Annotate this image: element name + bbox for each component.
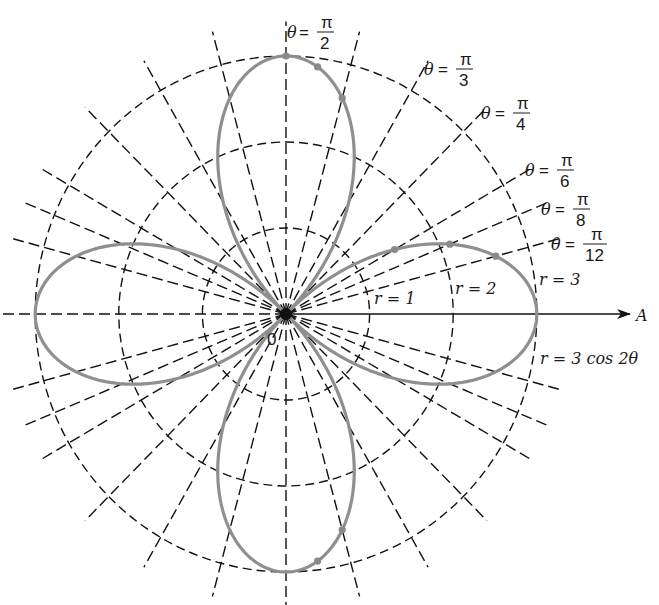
angle-label-pi-over-6: θ = π 6 (525, 151, 574, 191)
svg-text:=: = (539, 161, 549, 180)
plotted-point (282, 52, 289, 59)
grid-ray-345 (286, 314, 561, 390)
plotted-point (492, 253, 499, 260)
grid-ray-255 (212, 314, 286, 596)
grid-ray-135 (85, 107, 286, 314)
circle-label-r2: r = 2 (455, 279, 496, 298)
plotted-point (446, 241, 453, 248)
angle-label-pi-over-3: θ = π 3 (424, 50, 473, 90)
grid-ray-285 (286, 314, 360, 596)
circle-label-r1: r = 1 (374, 289, 415, 308)
svg-text:π: π (561, 151, 573, 170)
angle-label-pi-over-2: θ = π 2 (287, 13, 334, 53)
svg-text:θ: θ (481, 104, 491, 123)
plotted-point (314, 63, 321, 70)
svg-text:6: 6 (560, 172, 569, 191)
plotted-point (391, 246, 398, 253)
circle-label-r3: r = 3 (539, 270, 580, 289)
svg-text:θ: θ (541, 200, 551, 219)
angle-label-pi-over-8: θ = π 8 (541, 190, 590, 230)
svg-text:π: π (460, 50, 472, 69)
svg-text:=: = (495, 104, 505, 123)
polar-axis-label: A (634, 306, 648, 325)
plotted-point (339, 526, 346, 533)
svg-text:θ: θ (551, 235, 561, 254)
grid-ray-315 (286, 314, 487, 521)
polar-rose-diagram: A 0 r = 1 r = 2 r = 3 r = 3 cos 2θ θ = π… (0, 0, 659, 605)
grid-ray-15 (286, 238, 561, 314)
grid-ray-210 (40, 314, 286, 460)
labels: A 0 r = 1 r = 2 r = 3 r = 3 cos 2θ θ = π… (267, 13, 648, 368)
svg-text:3: 3 (459, 71, 468, 90)
svg-text:θ: θ (287, 23, 297, 42)
plotted-point (339, 95, 346, 102)
grid-ray-105 (212, 32, 286, 314)
svg-text:π: π (591, 225, 603, 244)
svg-text:8: 8 (576, 211, 585, 230)
grid-ray-120 (144, 61, 286, 314)
svg-text:π: π (577, 190, 589, 209)
svg-text:=: = (299, 23, 309, 42)
grid-ray-240 (144, 314, 286, 567)
origin-label: 0 (267, 330, 276, 349)
svg-text:θ: θ (424, 60, 434, 79)
svg-text:π: π (517, 94, 529, 113)
svg-text:π: π (321, 13, 333, 32)
angle-label-pi-over-4: θ = π 4 (481, 94, 530, 134)
grid-ray-60 (286, 61, 428, 314)
angle-label-pi-over-12: θ = π 12 (551, 225, 607, 265)
grid-ray-330 (286, 314, 532, 460)
plotted-point (314, 557, 321, 564)
svg-text:θ: θ (525, 161, 535, 180)
pole-point (280, 308, 292, 320)
svg-text:=: = (438, 60, 448, 79)
grid-ray-300 (286, 314, 428, 567)
grid-ray-225 (85, 314, 286, 521)
svg-text:2: 2 (320, 34, 329, 53)
svg-text:=: = (565, 235, 575, 254)
grid-ray-150 (40, 168, 286, 314)
grid-ray-75 (286, 32, 360, 314)
curve-equation-label: r = 3 cos 2θ (540, 349, 639, 368)
plotted-points (282, 52, 499, 564)
svg-text:4: 4 (516, 115, 525, 134)
svg-text:12: 12 (585, 246, 604, 265)
grid-ray-195 (11, 314, 286, 390)
grid-ray-165 (11, 238, 286, 314)
svg-text:=: = (555, 200, 565, 219)
